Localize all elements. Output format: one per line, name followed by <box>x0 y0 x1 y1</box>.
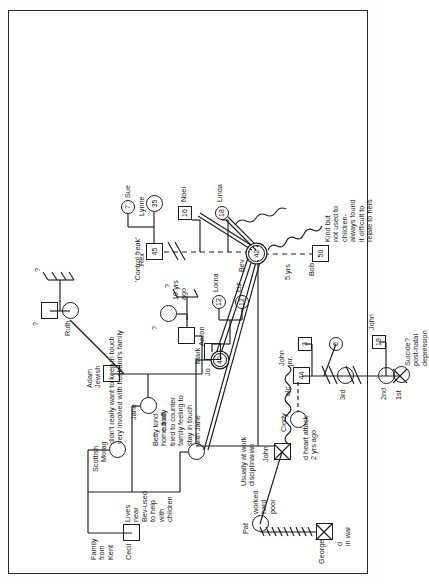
label-john-note: Usually at work disciplinarian <box>240 406 257 486</box>
person-symbol-john[interactable] <box>274 443 291 460</box>
label-1st: 1st <box>395 390 403 400</box>
label-noel: Noel <box>180 187 188 202</box>
label-lorna: Lorna <box>212 273 220 292</box>
label-john-death: d heart attack 2 yrs ago <box>302 390 319 460</box>
label-2nd: 2nd <box>380 388 388 400</box>
person-symbol-ruth[interactable] <box>62 302 79 319</box>
label-liz: Liz <box>235 283 243 292</box>
label-ruth-partner-q: ? <box>32 322 40 326</box>
person-symbol-aaron-partner[interactable] <box>160 305 177 322</box>
label-child-john: John <box>368 314 376 330</box>
person-symbol-ruth-partner[interactable] <box>41 302 58 319</box>
label-morag: Morag <box>100 441 108 462</box>
label-cindy: Cindy <box>280 413 288 432</box>
label-5-yrs: 5 yrs <box>284 264 292 280</box>
label-cecil: Cecil <box>125 544 133 560</box>
label-aaron-partner-q: ? <box>151 326 159 330</box>
label-linda: Linda <box>216 184 224 202</box>
label-ruth-children-q: ? <box>34 268 42 272</box>
label-ruth: Ruth <box>64 321 72 336</box>
age-lorna: 12 <box>214 295 223 309</box>
age-jo: 40 <box>215 353 224 367</box>
label-jo: Jo <box>204 368 212 376</box>
label-aaron: Aaron <box>198 327 206 346</box>
label-jewish: Jewish <box>94 366 102 388</box>
label-john: John <box>262 446 270 462</box>
label-bev: Bev <box>238 259 246 272</box>
label-10-yrs-ago: 10 yrs ago <box>172 270 189 300</box>
label-johnjnr: John jnr. <box>278 338 295 366</box>
label-alc: alc <box>284 387 292 396</box>
age-child-6: 6 <box>331 337 340 351</box>
person-symbol-wife3[interactable] <box>337 367 354 384</box>
label-sue: Sue <box>124 185 132 198</box>
age-lynne: 35 <box>150 195 159 212</box>
label-pat: Pat <box>242 523 250 534</box>
age-bev: 42 <box>252 245 261 262</box>
person-symbol-cecil[interactable] <box>123 524 140 541</box>
age-sue: 7 <box>123 200 132 214</box>
label-betty-note: Betty kind home body tried to counter fa… <box>152 376 202 446</box>
age-rex: 45 <box>150 243 159 260</box>
age-child-3: 3 <box>300 337 309 351</box>
diagram-frame: 40 12 12 42 50 45 35 7 16 18 44 3 6 19 F… <box>8 10 368 574</box>
label-lives-near-note: Lives near Bev-used to help with childre… <box>124 462 174 522</box>
label-keep-in-touch-note: didn't really want to keep in touch very… <box>108 314 125 444</box>
label-bob: Bob <box>308 263 316 276</box>
label-jane: Jane <box>130 404 138 420</box>
age-linda: 18 <box>217 206 226 220</box>
age-johnjnr: 44 <box>297 367 306 384</box>
label-lynne: Lynne <box>138 196 146 216</box>
person-symbol-wife1[interactable] <box>393 366 410 383</box>
label-george-death: d in war <box>336 516 353 546</box>
person-symbol-george[interactable] <box>316 523 333 540</box>
age-bob: 50 <box>316 245 325 262</box>
age-child-john19: 19 <box>374 335 383 349</box>
genogram-canvas: 40 12 12 42 50 45 35 7 16 18 44 3 6 19 F… <box>12 12 364 572</box>
label-george: George <box>318 540 326 564</box>
age-liz: 12 <box>237 295 246 309</box>
label-suicide-note: Suicide? post-natal depression <box>404 302 429 366</box>
person-symbol-aaron[interactable] <box>178 327 195 344</box>
person-symbol-pat[interactable] <box>252 515 269 532</box>
label-bob-note: Kind but not used to children- always fo… <box>324 180 374 242</box>
age-noel: 16 <box>180 206 189 220</box>
label-3rd: 3rd <box>339 389 347 400</box>
label-rex: Rex <box>138 253 146 266</box>
label-mark: Mark <box>194 348 202 364</box>
label-family-from-kent: Family from Kent <box>90 520 115 560</box>
